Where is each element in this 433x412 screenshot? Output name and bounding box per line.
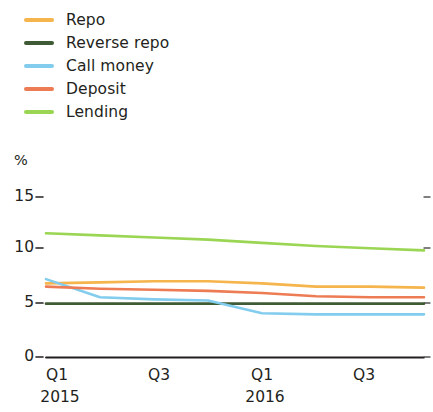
x-tick-label-q1-2016: Q1 xyxy=(251,366,273,384)
right-edge-tick-marks xyxy=(424,197,430,357)
series-line-deposit xyxy=(46,287,424,298)
series-line-repo xyxy=(46,281,424,287)
x-tick-label-q3-2015: Q3 xyxy=(148,366,170,384)
plot-area xyxy=(0,0,433,412)
x-axis-year-2016: 2016 xyxy=(245,388,284,406)
x-tick-label-q3-2016: Q3 xyxy=(353,366,375,384)
y-tick-marks xyxy=(36,197,43,357)
series-line-lending xyxy=(46,233,424,250)
data-series-group xyxy=(46,233,424,314)
chart-figure: Repo Reverse repo Call money Deposit Len… xyxy=(0,0,433,412)
x-axis-year-2015: 2015 xyxy=(40,388,79,406)
x-tick-label-q1-2015: Q1 xyxy=(46,366,68,384)
